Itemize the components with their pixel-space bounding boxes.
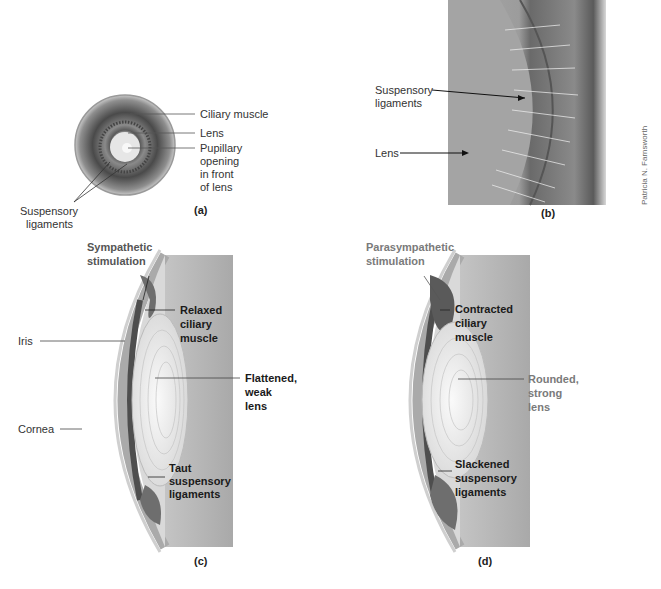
- label-taut-3: ligaments: [169, 488, 220, 501]
- label-cornea: Cornea: [18, 423, 54, 436]
- label-contracted-1: Contracted: [455, 303, 513, 316]
- label-relaxed-1: Relaxed: [180, 304, 222, 317]
- label-relaxed-3: muscle: [180, 332, 218, 345]
- label-sympathetic-1: Sympathetic: [87, 241, 152, 254]
- label-lens-a: Lens: [200, 127, 224, 140]
- panel-d-cross-section-contracted: [410, 250, 530, 552]
- panel-a-eye-front-view: [74, 95, 195, 202]
- label-suspensory-b-2: ligaments: [375, 97, 422, 110]
- label-slackened-2: suspensory: [455, 472, 517, 485]
- label-parasympathetic-2: stimulation: [366, 255, 425, 268]
- label-parasympathetic-1: Parasympathetic: [366, 241, 454, 254]
- eye-accommodation-diagram: [0, 0, 661, 589]
- label-suspensory-b-1: Suspensory: [375, 84, 433, 97]
- label-pupillary-1: Pupillary: [200, 142, 242, 155]
- label-slackened-1: Slackened: [455, 458, 509, 471]
- label-lens-b: Lens: [375, 147, 399, 160]
- label-relaxed-2: ciliary: [180, 318, 212, 331]
- label-slackened-3: ligaments: [455, 486, 506, 499]
- label-suspensory-a-1: Suspensory: [20, 205, 78, 218]
- label-flattened-1: Flattened,: [245, 372, 297, 385]
- label-pupillary-3: in front: [200, 168, 234, 181]
- panel-label-a: (a): [194, 204, 207, 216]
- label-rounded-1: Rounded,: [528, 373, 579, 386]
- panel-label-c: (c): [194, 555, 207, 567]
- label-pupillary-4: of lens: [200, 181, 232, 194]
- panel-label-b: (b): [541, 207, 555, 219]
- panel-c-cross-section-relaxed: [40, 250, 240, 552]
- label-flattened-3: lens: [245, 400, 267, 413]
- label-contracted-3: muscle: [455, 331, 493, 344]
- label-ciliary-muscle-a: Ciliary muscle: [200, 108, 268, 121]
- label-contracted-2: ciliary: [455, 317, 487, 330]
- label-flattened-2: weak: [245, 386, 272, 399]
- label-rounded-2: strong: [528, 387, 562, 400]
- label-taut-2: suspensory: [169, 475, 231, 488]
- label-iris: Iris: [18, 335, 33, 348]
- label-rounded-3: lens: [528, 401, 550, 414]
- label-sympathetic-2: stimulation: [87, 255, 146, 268]
- label-pupillary-2: opening: [200, 155, 239, 168]
- panel-label-d: (d): [478, 555, 492, 567]
- photo-credit: Patricia N. Farnsworth: [640, 126, 649, 205]
- label-suspensory-a-2: ligaments: [26, 218, 73, 231]
- label-taut-1: Taut: [169, 462, 191, 475]
- panel-b-micrograph: [400, 0, 606, 205]
